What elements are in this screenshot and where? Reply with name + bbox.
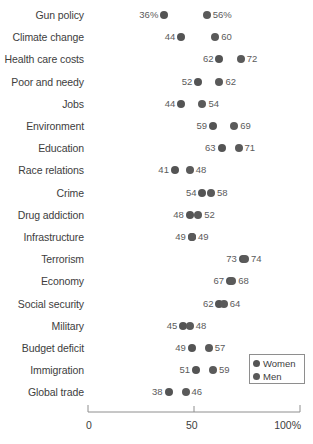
row-plot: 6264: [0, 294, 313, 314]
value-label-low: 41: [158, 160, 169, 180]
dot-men: [215, 78, 223, 86]
value-label-low: 45: [167, 316, 178, 336]
value-label-low: 54: [186, 183, 197, 203]
chart-row: Education6371: [0, 138, 313, 158]
x-tick-100pct: 100%: [274, 419, 301, 431]
value-label-low: 44: [165, 94, 176, 114]
row-plot: 4460: [0, 27, 313, 47]
row-plot: 5969: [0, 116, 313, 136]
dot-plot-chart: Gun policy36%56%Climate change4460Health…: [0, 0, 313, 444]
dot-men: [182, 388, 190, 396]
value-label-high: 48: [196, 160, 207, 180]
row-plot: 4852: [0, 205, 313, 225]
dot-men: [207, 189, 215, 197]
dot-men: [230, 122, 238, 130]
value-label-high: 59: [219, 360, 230, 380]
chart-row: Infrastructure4949: [0, 227, 313, 247]
value-label-low: 73: [226, 249, 237, 269]
dot-women: [160, 11, 168, 19]
dot-women: [186, 211, 194, 219]
dot-men: [237, 55, 245, 63]
dot-men: [198, 100, 206, 108]
dot-women: [198, 189, 206, 197]
value-label-high: 46: [192, 382, 203, 402]
chart-row: Social security6264: [0, 294, 313, 314]
value-label-low: 36%: [139, 5, 158, 25]
chart-row: Military4548: [0, 316, 313, 336]
value-label-high: 49: [198, 227, 209, 247]
value-label-high: 68: [238, 271, 249, 291]
value-label-low: 48: [173, 205, 184, 225]
value-label-low: 44: [165, 27, 176, 47]
value-label-high: 71: [245, 138, 256, 158]
dot-men: [220, 300, 228, 308]
legend-label: Women: [263, 358, 296, 369]
chart-row: Jobs4454: [0, 94, 313, 114]
legend-item-women[interactable]: Women: [253, 357, 304, 370]
value-label-high: 74: [251, 249, 262, 269]
value-label-high: 54: [208, 94, 219, 114]
row-plot: 5458: [0, 183, 313, 203]
row-plot: 6371: [0, 138, 313, 158]
legend-item-men[interactable]: Men: [253, 370, 304, 383]
dot-women: [188, 344, 196, 352]
value-label-low: 67: [213, 271, 224, 291]
value-label-low: 59: [197, 116, 208, 136]
value-label-low: 49: [175, 227, 186, 247]
chart-row: Environment5969: [0, 116, 313, 136]
value-label-low: 52: [182, 72, 193, 92]
row-plot: 3846: [0, 382, 313, 402]
dot-men: [194, 211, 202, 219]
value-label-low: 38: [152, 382, 163, 402]
dot-men: [211, 33, 219, 41]
value-label-high: 48: [196, 316, 207, 336]
row-plot: 5262: [0, 72, 313, 92]
value-label-high: 58: [217, 183, 228, 203]
dot-men: [186, 322, 194, 330]
value-label-high: 52: [204, 205, 215, 225]
row-plot: 4454: [0, 94, 313, 114]
dot-women: [165, 388, 173, 396]
value-label-low: 49: [175, 338, 186, 358]
row-plot: 6272: [0, 49, 313, 69]
dot-men: [209, 366, 217, 374]
value-label-low: 63: [205, 138, 216, 158]
chart-row: Crime5458: [0, 183, 313, 203]
dot-women: [192, 366, 200, 374]
dot-women: [218, 144, 226, 152]
x-tick-50: 50: [186, 419, 198, 431]
x-tick-0: 0: [86, 419, 92, 431]
dot-women: [194, 78, 202, 86]
row-plot: 4949: [0, 227, 313, 247]
legend-label: Men: [263, 371, 281, 382]
value-label-low: 62: [203, 49, 214, 69]
dot-men: [205, 344, 213, 352]
dot-women: [215, 55, 223, 63]
value-label-high: 57: [215, 338, 226, 358]
value-label-high: 60: [221, 27, 232, 47]
dot-women: [177, 100, 185, 108]
dot-men: [188, 233, 196, 241]
value-label-low: 62: [203, 294, 214, 314]
value-label-high: 56%: [213, 5, 232, 25]
chart-legend: WomenMen: [249, 354, 305, 384]
dot-women: [177, 33, 185, 41]
chart-row: Race relations4148: [0, 160, 313, 180]
value-label-high: 72: [247, 49, 258, 69]
dot-men: [235, 144, 243, 152]
chart-row: Global trade3846: [0, 382, 313, 402]
row-plot: 6768: [0, 271, 313, 291]
chart-row: Poor and needy5262: [0, 72, 313, 92]
row-plot: 7374: [0, 249, 313, 269]
chart-row: Economy6768: [0, 271, 313, 291]
value-label-high: 69: [240, 116, 251, 136]
dot-men: [228, 277, 236, 285]
dot-men: [186, 166, 194, 174]
row-plot: 36%56%: [0, 5, 313, 25]
chart-row: Drug addiction4852: [0, 205, 313, 225]
row-plot: 4148: [0, 160, 313, 180]
dot-men: [241, 255, 249, 263]
chart-row: Terrorism7374: [0, 249, 313, 269]
row-plot: 4548: [0, 316, 313, 336]
chart-row: Climate change4460: [0, 27, 313, 47]
